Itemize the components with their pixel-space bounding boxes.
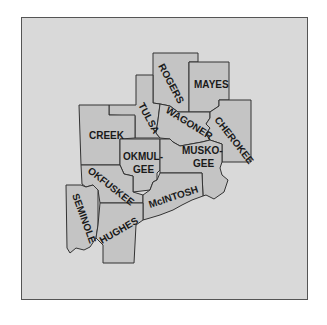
county-map: ROGERS MAYES TULSA WAGONER CHEROKEE CREE…: [0, 0, 327, 325]
label-mayes: MAYES: [194, 79, 229, 90]
label-okmulgee-1: OKMUL-: [123, 151, 163, 162]
label-muskogee-2: GEE: [193, 158, 214, 169]
label-muskogee-1: MUSKO-: [182, 145, 223, 156]
label-creek: CREEK: [89, 130, 125, 141]
label-okmulgee-2: GEE: [133, 164, 154, 175]
